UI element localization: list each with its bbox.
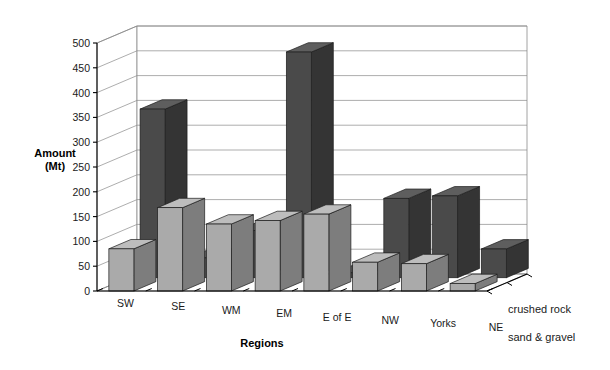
x-axis-title: Regions [240,337,283,349]
x-tick-label: EM [276,307,292,319]
bar-side-face [183,198,205,291]
depth-axis-tick [487,291,492,294]
x-tick-label: NE [489,321,504,333]
y-axis-title-line1: Amount [34,147,76,159]
y-tick-label: 400 [72,87,90,99]
bar-front-face [206,224,231,291]
bar-sand-gravel [158,198,205,291]
legend-label-crushed-rock: crushed rock [508,303,571,315]
y-tick-label: 50 [78,260,90,272]
y-tick-label: 250 [72,161,90,173]
y-tick-label: 500 [72,37,90,49]
x-tick-label: SE [171,300,185,312]
bar-front-face [109,249,134,291]
bar-front-face [353,262,378,291]
bar-sand-gravel [206,215,253,291]
bar-side-face [231,215,253,291]
y-tick-label: 350 [72,111,90,123]
legend-label-sand-gravel: sand & gravel [508,331,575,343]
bar-side-face [458,187,480,278]
bar-front-face [401,264,426,291]
y-tick-label: 200 [72,186,90,198]
depth-axis-tick [507,283,512,286]
bar-sand-gravel [109,239,156,291]
y-tick-label: 0 [84,285,90,297]
x-tick-label: SW [117,297,134,309]
y-tick-label: 450 [72,62,90,74]
bar-front-face [158,208,183,291]
chart-container: 050100150200250300350400450500SWSEWMEME … [0,0,610,370]
y-tick-label: 150 [72,211,90,223]
y-axis-title-line2: (Mt) [45,160,65,172]
bar-side-face [329,205,351,291]
y-tick-label: 100 [72,235,90,247]
x-tick-label: E of E [323,311,352,323]
bar-chart-3d: 050100150200250300350400450500SWSEWMEME … [0,0,610,370]
x-tick-label: NW [381,314,399,326]
x-tick-label: WM [222,304,241,316]
bar-front-face [255,221,280,291]
bar-sand-gravel [255,211,302,291]
bar-front-face [450,284,475,291]
bar-sand-gravel [304,205,351,291]
bar-front-face [304,214,329,291]
depth-axis-tick [527,274,532,277]
x-tick-label: Yorks [430,317,456,329]
bar-side-face [280,211,302,291]
bar-front-face [481,249,506,278]
